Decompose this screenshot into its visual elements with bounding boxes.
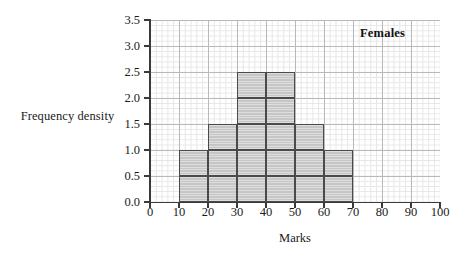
y-axis-tick-label: 3.5 xyxy=(112,14,140,27)
bar-gridline xyxy=(266,97,295,99)
bar-gridline xyxy=(179,175,208,177)
bar-gridline xyxy=(295,149,324,151)
x-axis-tick-label: 30 xyxy=(222,206,252,219)
bar-gridline xyxy=(208,175,237,177)
x-axis-tick-label: 0 xyxy=(135,206,165,219)
bar-gridline xyxy=(266,149,295,151)
x-axis-tick-label: 60 xyxy=(309,206,339,219)
x-axis-tick-label: 50 xyxy=(280,206,310,219)
x-axis-tick-label: 80 xyxy=(367,206,397,219)
y-axis-tick xyxy=(144,19,149,20)
bar-gridline xyxy=(237,97,266,99)
histogram-bar xyxy=(266,72,295,202)
y-axis-tick-label: 0.5 xyxy=(112,170,140,183)
y-axis-tick xyxy=(144,71,149,72)
y-axis-tick-label: 2.5 xyxy=(112,66,140,79)
x-axis-tick-label: 100 xyxy=(425,206,455,219)
histogram-chart: Frequency density 0.00.51.01.52.02.53.03… xyxy=(0,0,462,258)
y-axis-tick xyxy=(144,123,149,124)
histogram-bar xyxy=(295,124,324,202)
y-axis-tick xyxy=(144,175,149,176)
series-label: Females xyxy=(360,26,405,41)
x-axis-tick-label: 40 xyxy=(251,206,281,219)
bar-gridline xyxy=(237,123,266,125)
y-axis-title: Frequency density xyxy=(10,109,125,124)
x-axis-tick-label: 10 xyxy=(164,206,194,219)
x-axis-tick-label: 70 xyxy=(338,206,368,219)
y-axis-line xyxy=(149,19,151,203)
histogram-bar xyxy=(237,72,266,202)
bar-gridline xyxy=(324,175,353,177)
y-axis-tick-label: 1.5 xyxy=(112,118,140,131)
x-axis-tick-label: 20 xyxy=(193,206,223,219)
y-axis-tick xyxy=(144,201,149,202)
histogram-bar xyxy=(208,124,237,202)
y-axis-tick-label: 2.0 xyxy=(112,92,140,105)
x-axis-tick-label: 90 xyxy=(396,206,426,219)
y-axis-tick-label: 3.0 xyxy=(112,40,140,53)
y-axis-tick xyxy=(144,45,149,46)
bar-gridline xyxy=(237,149,266,151)
bar-gridline xyxy=(266,123,295,125)
y-axis-tick-label: 1.0 xyxy=(112,144,140,157)
x-axis-title: Marks xyxy=(150,231,440,246)
bar-gridline xyxy=(237,175,266,177)
y-axis-tick xyxy=(144,149,149,150)
y-axis-tick xyxy=(144,97,149,98)
bar-gridline xyxy=(295,175,324,177)
bar-gridline xyxy=(208,149,237,151)
bar-gridline xyxy=(266,175,295,177)
